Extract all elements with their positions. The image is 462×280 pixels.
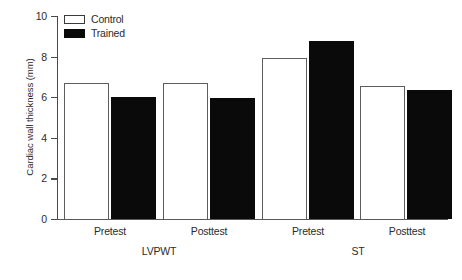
bar-st-posttest-control [360, 86, 405, 219]
x-sub-label-st-pretest: Pretest [268, 226, 348, 237]
x-group-label-st: ST [318, 246, 398, 257]
bar-lvpwt-pretest-trained [111, 97, 156, 219]
bar-lvpwt-posttest-control [163, 83, 208, 219]
bar-st-pretest-trained [309, 41, 354, 219]
y-tick-mark-4 [51, 138, 57, 139]
legend-item-control: Control [64, 12, 125, 26]
bar-lvpwt-posttest-trained [210, 98, 255, 219]
legend-label-trained: Trained [91, 28, 125, 39]
y-tick-label-4: 4 [6, 133, 47, 144]
y-tick-mark-2 [51, 178, 57, 179]
y-tick-mark-10 [51, 16, 57, 17]
y-tick-label-8: 8 [6, 52, 47, 63]
y-tick-mark-8 [51, 57, 57, 58]
bar-chart-figure: Cardiac wall thickness (mm) 10 8 6 4 2 0… [0, 0, 462, 280]
x-axis-line [57, 219, 448, 220]
y-axis-line [57, 16, 58, 219]
open-square-swatch-icon [64, 15, 85, 24]
filled-square-swatch-icon [64, 29, 85, 38]
legend-label-control: Control [91, 14, 123, 25]
y-tick-mark-6 [51, 97, 57, 98]
bar-st-pretest-control [262, 58, 307, 219]
x-sub-label-lvpwt-posttest: Posttest [169, 226, 249, 237]
x-group-label-lvpwt: LVPWT [119, 246, 199, 257]
y-tick-label-6: 6 [6, 92, 47, 103]
y-tick-label-10: 10 [6, 11, 47, 22]
bar-lvpwt-pretest-control [64, 83, 109, 219]
legend-item-trained: Trained [64, 26, 125, 40]
y-tick-label-0: 0 [6, 214, 47, 225]
legend: Control Trained [64, 12, 125, 40]
y-tick-label-2: 2 [6, 173, 47, 184]
bar-st-posttest-trained [407, 90, 452, 219]
x-sub-label-st-posttest: Posttest [367, 226, 447, 237]
x-sub-label-lvpwt-pretest: Pretest [70, 226, 150, 237]
